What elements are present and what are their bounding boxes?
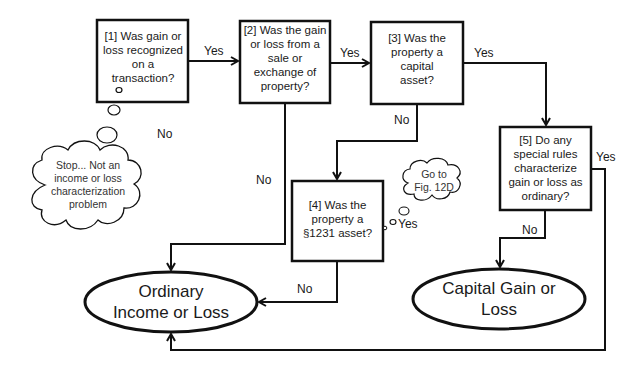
q5-text: [5] Do any special rules characterize ga…: [502, 132, 589, 204]
thought-bubble-small-q4: [390, 220, 396, 225]
label-q5-no: No: [522, 223, 537, 237]
label-q2-yes: Yes: [340, 46, 360, 60]
label-q4-yes: Yes: [398, 217, 418, 231]
stop-cloud-text: Stop... Not an income or loss characteri…: [48, 152, 128, 218]
capital-outcome: Capital Gain or Loss: [436, 277, 562, 321]
thought-bubble-medium: [108, 105, 120, 115]
q3-text: [3] Was the property a capital asset?: [385, 35, 449, 83]
q4-text: [4] Was the property a §1231 asset?: [300, 193, 375, 245]
label-q5-yes: Yes: [596, 150, 616, 164]
thought-bubble-small: [116, 88, 122, 93]
q2-text: [2] Was the gain or loss from a sale or …: [242, 28, 328, 88]
label-q1-yes: Yes: [204, 44, 224, 58]
label-q2-no: No: [256, 173, 271, 187]
label-q1-no: No: [157, 127, 172, 141]
thought-bubble-medium-q4: [399, 207, 409, 215]
q1-text: [1] Was gain or loss recognized on a tra…: [103, 28, 183, 86]
label-q3-yes: Yes: [474, 46, 494, 60]
edge-q3-q5: [463, 63, 546, 125]
label-q3-no: No: [394, 113, 409, 127]
thought-bubble-tiny-q4: [383, 226, 387, 230]
edge-q5-capital: [500, 210, 545, 267]
label-q4-no: No: [297, 282, 312, 296]
thought-bubble-large: [97, 127, 117, 143]
ordinary-outcome: Ordinary Income or Loss: [110, 280, 232, 324]
goto-cloud-text: Go to Fig. 12D: [414, 167, 454, 195]
